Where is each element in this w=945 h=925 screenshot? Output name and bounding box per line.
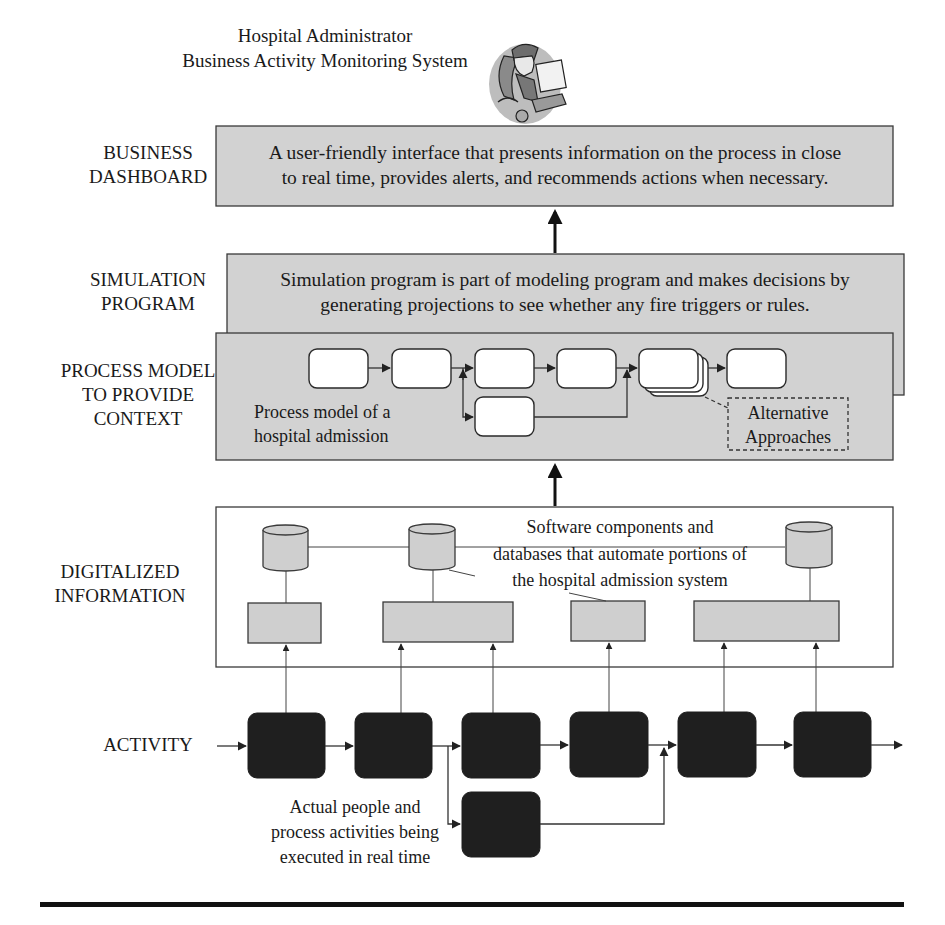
activity-step-6 <box>794 712 871 777</box>
process-caption-line2: hospital admission <box>254 426 389 446</box>
digitalized-caption-line1: Software components and <box>527 517 714 537</box>
process-model-layer: PROCESS MODEL TO PROVIDE CONTEXT Process… <box>61 333 893 460</box>
activity-step-2 <box>355 713 432 778</box>
process-label-line3: CONTEXT <box>94 408 183 429</box>
activity-step-3 <box>462 713 540 778</box>
digitalized-caption-line3: the hospital admission system <box>512 570 728 590</box>
digitalized-label-line1: DIGITALIZED <box>61 561 180 582</box>
database-icon <box>263 525 308 571</box>
simulation-label-line1: SIMULATION <box>90 269 206 290</box>
activity-step-5 <box>678 712 756 777</box>
software-component-2 <box>383 602 513 642</box>
activity-layer: ACTIVITY Actual people and process activ… <box>103 712 902 867</box>
simulation-text-line1: Simulation program is part of modeling p… <box>280 269 850 290</box>
process-step-6 <box>727 349 786 388</box>
activity-label: ACTIVITY <box>103 734 193 755</box>
process-step-3 <box>475 349 534 388</box>
activity-step-branch <box>462 792 540 857</box>
dashboard-layer: BUSINESS DASHBOARD A user-friendly inter… <box>89 126 893 206</box>
dashboard-text-line2: to real time, provides alerts, and recom… <box>282 167 829 188</box>
administrator-at-computer-icon <box>489 44 566 124</box>
activity-caption-line1: Actual people and <box>290 797 421 817</box>
process-step-1 <box>309 349 368 388</box>
database-icon <box>786 522 832 568</box>
digitalized-caption-line2: databases that automate portions of <box>493 544 747 564</box>
activity-step-1 <box>248 713 325 778</box>
activity-caption-line2: process activities being <box>271 822 439 842</box>
process-caption-line1: Process model of a <box>254 402 390 422</box>
callout-line2: Approaches <box>745 427 831 447</box>
digitalized-label-line2: INFORMATION <box>55 585 186 606</box>
software-component-3 <box>571 601 645 641</box>
process-label-line2: TO PROVIDE <box>82 384 194 405</box>
header-title-line1: Hospital Administrator <box>238 25 413 46</box>
dashboard-label-line2: DASHBOARD <box>89 166 207 187</box>
digitalized-layer: DIGITALIZED INFORMATION <box>55 507 893 667</box>
dashboard-text-line1: A user-friendly interface that presents … <box>269 142 842 163</box>
process-step-4 <box>557 349 616 388</box>
bottom-rule-divider <box>40 902 904 907</box>
simulation-label-line2: PROGRAM <box>101 293 195 314</box>
header: Hospital Administrator Business Activity… <box>182 25 468 71</box>
database-icon <box>409 524 455 570</box>
activity-caption-line3: executed in real time <box>280 847 430 867</box>
process-label-line1: PROCESS MODEL <box>61 360 216 381</box>
activity-step-4 <box>570 712 648 777</box>
process-step-5 <box>639 349 698 388</box>
software-component-1 <box>248 603 321 643</box>
architecture-diagram: Hospital Administrator Business Activity… <box>0 0 945 925</box>
simulation-text-line2: generating projections to see whether an… <box>320 294 810 315</box>
dashboard-label-line1: BUSINESS <box>103 142 193 163</box>
dashboard-box <box>216 126 893 206</box>
header-title-line2: Business Activity Monitoring System <box>182 50 468 71</box>
process-step-branch <box>475 397 534 436</box>
software-component-4 <box>694 601 839 641</box>
process-step-2 <box>392 349 451 388</box>
callout-line1: Alternative <box>748 403 829 423</box>
